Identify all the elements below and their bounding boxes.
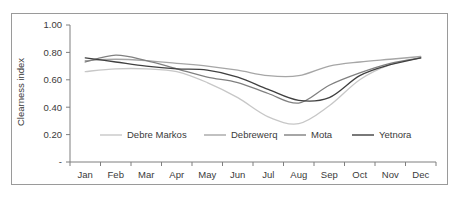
chart-figure: -0.200.400.600.801.00 JanFebMarAprMayJun… bbox=[11, 13, 448, 185]
x-tick-label: May bbox=[198, 169, 216, 180]
x-tick-label: Jun bbox=[230, 169, 245, 180]
y-tick-label: 0.40 bbox=[44, 102, 63, 113]
legend-label-mota: Mota bbox=[311, 129, 333, 140]
chart-legend: Debre MarkosDebrewerqMotaYetnora bbox=[100, 129, 412, 140]
x-tick-label: Aug bbox=[290, 169, 307, 180]
series-line-debre-markos bbox=[85, 58, 421, 124]
x-tick-label: Feb bbox=[108, 169, 124, 180]
y-tick-label: 0.80 bbox=[44, 47, 63, 58]
x-tick-label: Oct bbox=[352, 169, 367, 180]
legend-label-debre-markos: Debre Markos bbox=[127, 129, 187, 140]
x-tick-label: Mar bbox=[138, 169, 154, 180]
y-tick-label: 0.20 bbox=[44, 129, 63, 140]
y-tick-label: - bbox=[59, 156, 62, 167]
clearness-index-line-chart: -0.200.400.600.801.00 JanFebMarAprMayJun… bbox=[12, 14, 447, 184]
x-tick-label: Dec bbox=[412, 169, 429, 180]
x-tick-label: Nov bbox=[382, 169, 399, 180]
y-tick-label: 1.00 bbox=[44, 19, 63, 30]
y-tick-label: 0.60 bbox=[44, 74, 63, 85]
x-tick-label: Jul bbox=[262, 169, 274, 180]
legend-label-yetnora: Yetnora bbox=[379, 129, 412, 140]
series-lines bbox=[85, 55, 421, 124]
y-axis-title: Clearness index bbox=[15, 58, 26, 126]
x-tick-label: Jan bbox=[78, 169, 93, 180]
series-line-yetnora bbox=[85, 58, 421, 101]
series-line-mota bbox=[85, 55, 421, 103]
x-tick-label: Sep bbox=[321, 169, 338, 180]
y-axis: -0.200.400.600.801.00 bbox=[44, 19, 71, 167]
x-axis: JanFebMarAprMayJunJulAugSepOctNovDec bbox=[70, 162, 436, 180]
legend-label-debrewerq: Debrewerq bbox=[231, 129, 277, 140]
x-tick-label: Apr bbox=[169, 169, 184, 180]
